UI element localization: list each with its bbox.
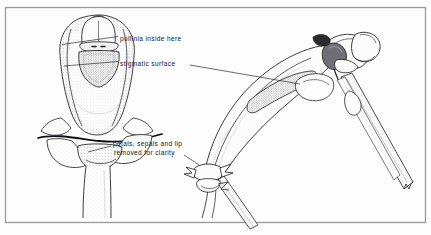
basal-bract-lower: [197, 179, 221, 193]
bract-right-upper: [123, 118, 153, 135]
probe-left: [216, 176, 258, 229]
label-stigmatic-surface: stigmatic surface: [120, 59, 175, 68]
apex-knob: [313, 35, 330, 46]
lateral-column-body: [205, 46, 337, 180]
front-view-column: [38, 15, 162, 218]
lateral-side-lobe: [295, 74, 333, 101]
label-petals-line2: removed for clarity: [113, 148, 182, 157]
leader-petals-right: [184, 155, 199, 165]
illustration-canvas: [0, 0, 431, 235]
label-petals-line1: petals, sepals and lip: [113, 140, 182, 147]
label-petals-removed: petals, sepals and lip removed for clari…: [113, 139, 182, 158]
label-pollinia-inside-here: pollinia inside here: [120, 34, 182, 43]
lateral-anther-cap: [352, 32, 381, 61]
botanical-figure: pollinia inside here stigmatic surface p…: [0, 0, 431, 235]
pedicel-stalk: [83, 166, 111, 218]
probe-right-secondary: [337, 77, 400, 180]
lateral-view-column: [184, 32, 413, 229]
bract-left-upper: [41, 118, 71, 135]
probe-left-inner-line: [220, 180, 253, 226]
